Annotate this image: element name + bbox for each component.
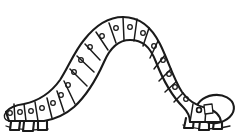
proleg [23, 122, 34, 131]
proleg [38, 121, 47, 130]
drawing-canvas [0, 0, 247, 136]
tail-segment-divider [14, 104, 15, 121]
caterpillar-illustration [0, 0, 247, 136]
mandible-plate [204, 104, 213, 114]
proleg [10, 122, 20, 130]
segment-divider [123, 17, 124, 40]
